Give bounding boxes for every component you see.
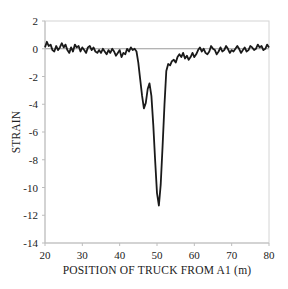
y-tick-label: -2	[29, 71, 38, 83]
y-tick-label: -8	[29, 154, 39, 166]
x-tick-label: 60	[189, 249, 201, 261]
y-axis-label: STRAIN	[10, 110, 22, 153]
x-tick-label: 80	[264, 249, 276, 261]
x-tick-label: 30	[77, 249, 89, 261]
y-tick-label: 2	[33, 15, 39, 27]
y-tick-label: 0	[33, 43, 39, 55]
x-axis-ticks: 20304050607080	[40, 243, 276, 261]
y-tick-label: -10	[23, 182, 38, 194]
x-tick-label: 70	[226, 249, 238, 261]
x-tick-label: 20	[40, 249, 52, 261]
y-tick-label: -12	[23, 209, 38, 221]
x-tick-label: 50	[152, 249, 164, 261]
y-tick-label: -14	[23, 237, 38, 249]
plot-area	[45, 21, 269, 243]
x-axis-label: POSITION OF TRUCK FROM A1 (m)	[63, 264, 252, 277]
y-tick-label: -6	[29, 126, 39, 138]
y-tick-label: -4	[29, 98, 39, 110]
x-tick-label: 40	[114, 249, 126, 261]
strain-line-chart: 20-2-4-6-8-10-12-14 20304050607080 POSIT…	[0, 0, 288, 289]
y-axis-ticks: 20-2-4-6-8-10-12-14	[23, 15, 45, 249]
